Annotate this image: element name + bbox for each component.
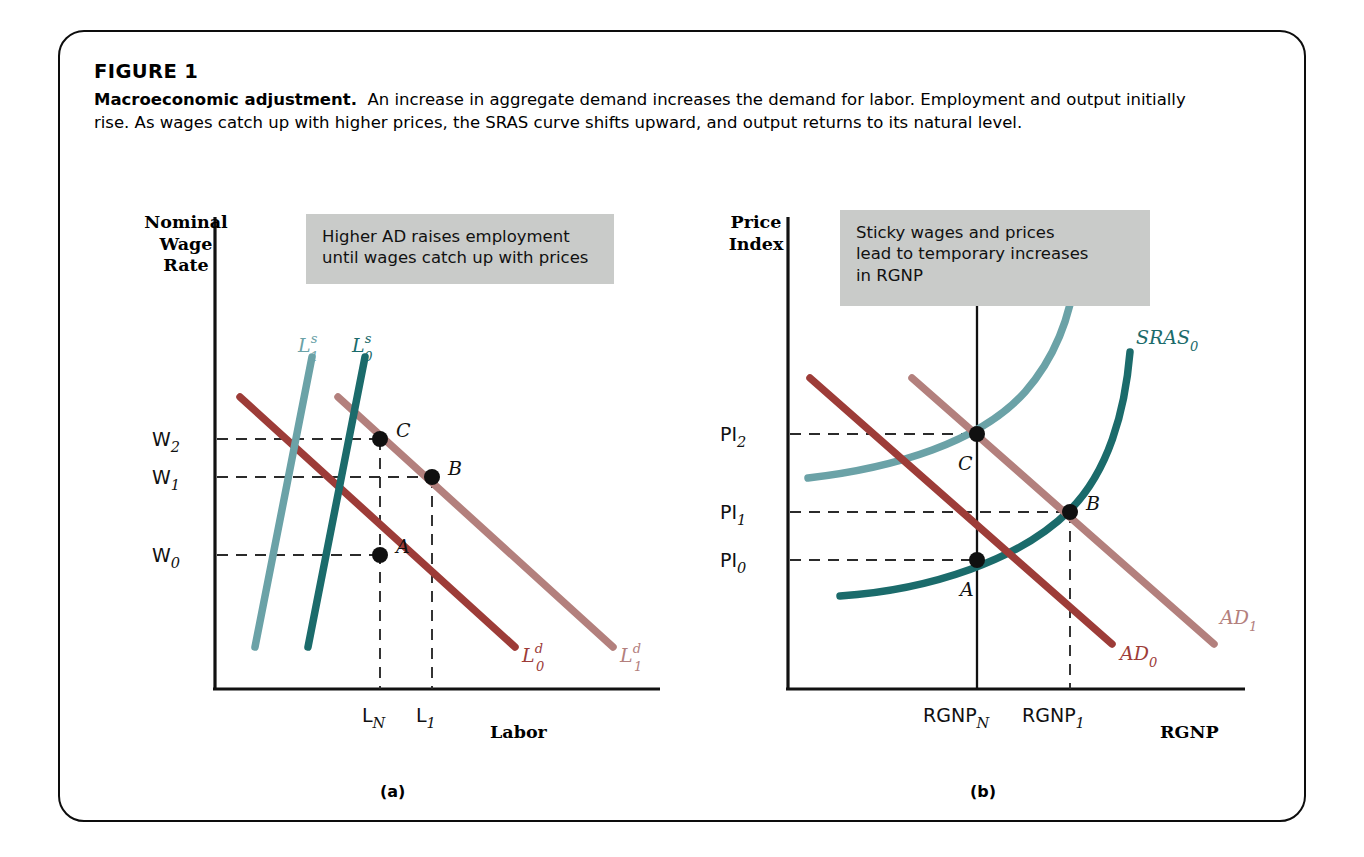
panel-b-y-axis-title: Price Index [708, 212, 804, 255]
panel-b-ytick-pi2: PI2 [720, 423, 746, 450]
panel-b-curve-sras-0 [840, 352, 1130, 596]
panel-b-letter: (b) [970, 782, 996, 801]
panel-b-xtick-rgnp1: RGNP1 [1022, 704, 1085, 731]
figure-number: FIGURE 1 [94, 60, 1274, 83]
panel-b-callout-note: Sticky wages and prices lead to temporar… [840, 210, 1150, 306]
panel-b-point-a-label: A [958, 578, 974, 600]
panel-a-point-a-label: A [394, 535, 410, 557]
panel-a-point-c-dot [372, 431, 388, 447]
panel-a-point-b-label: B [447, 457, 462, 479]
panel-a-x-axis-title: Labor [490, 722, 547, 742]
figure-caption: Macroeconomic adjustment. An increase in… [94, 88, 1219, 135]
panel-a-labor-market: Nominal Wage Rate Labor Higher AD raises… [90, 192, 690, 792]
panel-a-point-c-label: C [396, 419, 411, 441]
panel-a-curve-labor-supply-1 [255, 357, 312, 647]
panel-a-letter: (a) [380, 782, 405, 801]
panel-a-point-b-dot [424, 469, 440, 485]
panel-b-xtick-rgnpn: RGNPN [923, 704, 991, 731]
panel-a-ytick-w2: W2 [152, 428, 180, 455]
panel-a-ytick-w1: W1 [152, 466, 180, 493]
panel-b-ad-as-model: Price Index RGNP Sticky wages and prices… [680, 192, 1280, 792]
panel-a-point-a-dot [372, 547, 388, 563]
panel-a-xtick-ln: LN [362, 704, 387, 731]
figure-caption-block: FIGURE 1 Macroeconomic adjustment. An in… [94, 60, 1274, 135]
panel-b-point-b-label: B [1085, 492, 1100, 514]
panel-b-ytick-pi0: PI0 [720, 549, 746, 576]
panel-a-y-axis-title: Nominal Wage Rate [138, 212, 234, 277]
panel-b-label-ad-0: AD0 [1118, 642, 1157, 670]
panel-b-point-c-dot [969, 426, 985, 442]
caption-lead: Macroeconomic adjustment. [94, 90, 357, 109]
figure-frame: FIGURE 1 Macroeconomic adjustment. An in… [58, 30, 1306, 822]
panel-b-label-ad-1: AD1 [1218, 606, 1257, 634]
panel-a-ytick-w0: W0 [152, 544, 180, 571]
panel-b-point-a-dot [969, 552, 985, 568]
panel-b-x-axis-title: RGNP [1160, 722, 1219, 742]
panel-b-ytick-pi1: PI1 [720, 501, 746, 528]
panel-b-point-c-label: C [958, 452, 973, 474]
panel-b-label-sras-0: SRAS0 [1136, 326, 1198, 354]
panel-a-label-labor-demand-0: Ld0 [521, 641, 544, 674]
panel-a-label-labor-demand-1: Ld1 [619, 641, 642, 674]
panel-a-callout-note: Higher AD raises employment until wages … [306, 214, 614, 284]
panel-b-point-b-dot [1062, 504, 1078, 520]
panel-a-xtick-l1: L1 [416, 704, 436, 731]
